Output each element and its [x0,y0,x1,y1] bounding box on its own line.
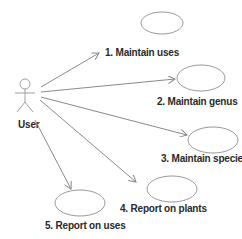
association-uc4 [40,100,136,182]
association-uc1 [41,53,99,87]
use-case-5[interactable]: 5. Report on uses [45,190,126,231]
use-case-2[interactable]: 2. Maintain genus [157,65,238,107]
use-case-label: 2. Maintain genus [157,96,238,107]
use-case-label: 5. Report on uses [45,220,126,231]
association-uc5 [35,120,71,189]
use-case-3[interactable]: 3. Maintain species [161,127,242,164]
actor-label: User [18,119,40,130]
use-case-1[interactable]: 1. Maintain uses [105,12,183,58]
use-case-diagram: User 1. Maintain uses 2. Maintain genus … [0,0,242,239]
use-case-ellipse [177,65,225,91]
use-case-ellipse [141,12,183,34]
use-case-ellipse [55,190,105,216]
use-case-ellipse [188,127,238,153]
use-case-label: 3. Maintain species [161,153,242,164]
association-uc2 [41,79,175,92]
use-case-label: 4. Report on plants [120,203,207,214]
use-case-label: 1. Maintain uses [105,47,180,58]
actor-right-leg [25,102,33,112]
actor-head [20,79,30,89]
actor-left-leg [17,102,25,112]
use-case-4[interactable]: 4. Report on plants [120,176,207,214]
use-case-ellipse [147,176,197,202]
